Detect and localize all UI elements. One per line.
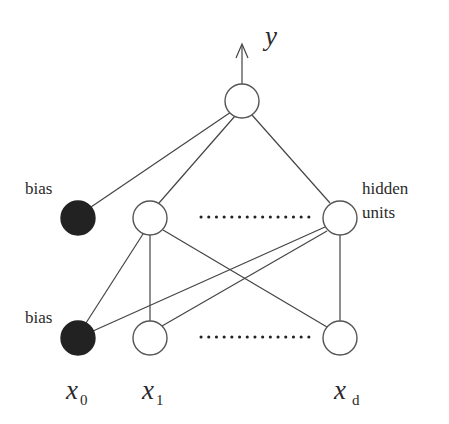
xd-subscript: d <box>352 392 360 408</box>
output-arrow-icon <box>236 44 248 84</box>
hidden-units-label-line1: hidden <box>362 179 409 198</box>
hidden-bias-label: bias <box>25 179 52 198</box>
input-bias-label: bias <box>25 308 52 327</box>
hidden-units-label-line2: units <box>362 203 395 222</box>
xd-label: x d <box>333 375 360 408</box>
hidden-node-d <box>323 201 357 235</box>
edges <box>86 112 340 331</box>
output-label: y <box>262 21 277 51</box>
x1-label: x 1 <box>141 375 164 408</box>
edge-output-hidden1 <box>159 116 235 203</box>
x1-subscript: 1 <box>156 392 164 408</box>
x0-base: x <box>65 375 78 405</box>
input-node-1 <box>133 321 167 355</box>
input-bias-node <box>61 321 95 355</box>
edge-output-hiddend <box>252 115 330 203</box>
edge-hidden1-inputbias <box>86 234 143 323</box>
output-node <box>225 84 259 118</box>
hidden-bias-node <box>61 201 95 235</box>
x0-label: x 0 <box>65 375 88 408</box>
x1-base: x <box>141 375 154 405</box>
nodes <box>61 84 357 355</box>
neural-network-diagram: y bias bias hidden units x 0 x 1 x d <box>0 0 449 424</box>
hidden-node-1 <box>133 201 167 235</box>
edge-hiddend-inputbias <box>93 227 325 331</box>
x0-subscript: 0 <box>80 392 88 408</box>
edge-output-hiddenbias <box>91 112 231 207</box>
xd-base: x <box>333 375 346 405</box>
input-node-d <box>323 321 357 355</box>
